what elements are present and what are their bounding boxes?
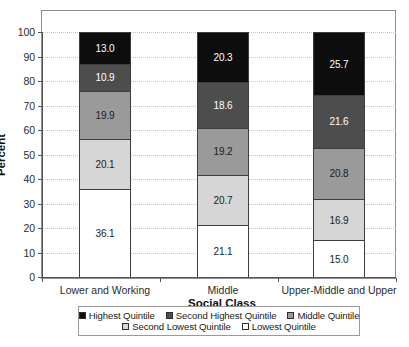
bar-segment[interactable]: 36.1 — [79, 189, 131, 277]
y-tick-label: 80 — [1, 75, 35, 87]
y-tick-mark — [38, 130, 42, 131]
y-tick-label: 60 — [1, 124, 35, 136]
legend-label: Second Lowest Quintile — [132, 321, 231, 332]
x-category-label: Lower and Working — [60, 284, 150, 296]
y-tick-mark — [38, 106, 42, 107]
y-tick-label: 100 — [1, 26, 35, 38]
y-tick-label: 0 — [1, 271, 35, 283]
y-tick-label: 40 — [1, 173, 35, 185]
legend-item[interactable]: Second Highest Quintile — [166, 310, 277, 321]
x-category-label: Middle — [208, 284, 239, 296]
y-tick-label: 30 — [1, 198, 35, 210]
legend-item[interactable]: Middle Quintile — [287, 310, 359, 321]
legend-item[interactable]: Second Lowest Quintile — [122, 321, 231, 332]
bar-segment[interactable]: 20.1 — [79, 139, 131, 188]
legend-swatch-icon — [242, 323, 249, 330]
x-tick-mark — [396, 278, 397, 282]
y-tick-label: 90 — [1, 51, 35, 63]
bar-segment[interactable]: 18.6 — [197, 82, 249, 128]
bar-segment[interactable]: 16.9 — [313, 199, 365, 240]
bar-segment[interactable]: 19.2 — [197, 128, 249, 175]
x-category-label: Upper-Middle and Upper — [282, 284, 397, 296]
legend-swatch-icon — [287, 312, 294, 319]
legend-label: Lowest Quintile — [252, 321, 316, 332]
bar-segment[interactable]: 13.0 — [79, 32, 131, 64]
x-axis-line — [42, 277, 396, 278]
legend-row-bottom: Second Lowest QuintileLowest Quintile — [81, 321, 357, 332]
x-tick-mark — [160, 278, 161, 282]
y-tick-label: 20 — [1, 222, 35, 234]
bar-segment[interactable]: 25.7 — [313, 32, 365, 95]
bar-segment[interactable]: 20.7 — [197, 175, 249, 226]
y-tick-mark — [38, 204, 42, 205]
y-tick-mark — [38, 253, 42, 254]
y-tick-mark — [38, 81, 42, 82]
y-tick-mark — [38, 32, 42, 33]
bar-segment[interactable]: 10.9 — [79, 64, 131, 91]
y-tick-mark — [38, 57, 42, 58]
chart-legend: Highest QuintileSecond Highest QuintileM… — [78, 306, 360, 336]
legend-label: Second Highest Quintile — [176, 310, 277, 321]
bar-segment[interactable]: 20.8 — [313, 148, 365, 199]
legend-swatch-icon — [166, 312, 173, 319]
legend-label: Highest Quintile — [89, 310, 155, 321]
y-tick-label: 50 — [1, 149, 35, 161]
legend-swatch-icon — [79, 312, 86, 319]
bar-segment[interactable]: 20.3 — [197, 32, 249, 82]
x-tick-mark — [278, 278, 279, 282]
stacked-bar[interactable]: 36.120.119.910.913.0 — [79, 32, 131, 277]
y-tick-label: 10 — [1, 247, 35, 259]
y-tick-mark — [38, 155, 42, 156]
y-tick-label: 70 — [1, 100, 35, 112]
legend-row-top: Highest QuintileSecond Highest QuintileM… — [81, 310, 357, 321]
stacked-bar[interactable]: 21.120.719.218.620.3 — [197, 32, 249, 277]
x-tick-mark — [42, 278, 43, 282]
bar-segment[interactable]: 21.1 — [197, 225, 249, 277]
plot-area: 0102030405060708090100 36.120.119.910.91… — [42, 32, 396, 278]
bar-segment[interactable]: 21.6 — [313, 95, 365, 148]
stacked-bar[interactable]: 15.016.920.821.625.7 — [313, 32, 365, 277]
bar-segment[interactable]: 19.9 — [79, 91, 131, 140]
y-tick-mark — [38, 228, 42, 229]
legend-item[interactable]: Lowest Quintile — [242, 321, 316, 332]
y-tick-mark — [38, 179, 42, 180]
legend-item[interactable]: Highest Quintile — [79, 310, 155, 321]
legend-label: Middle Quintile — [297, 310, 359, 321]
bar-segment[interactable]: 15.0 — [313, 240, 365, 277]
legend-swatch-icon — [122, 323, 129, 330]
